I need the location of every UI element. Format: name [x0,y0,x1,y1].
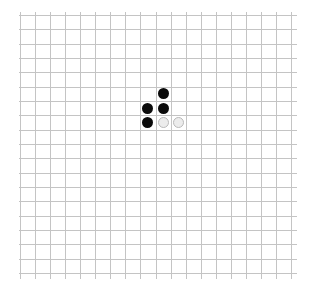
board-cell[interactable] [80,58,95,72]
board-cell[interactable] [80,72,95,86]
board-cell[interactable] [65,101,80,115]
board-cell[interactable] [20,101,35,115]
board-cell[interactable] [110,87,125,101]
board-cell[interactable] [246,101,261,115]
board-cell[interactable] [276,144,291,158]
board-cell[interactable] [125,244,140,258]
board-cell[interactable] [276,244,291,258]
board-cell[interactable] [171,259,186,273]
board-cell[interactable] [110,58,125,72]
board-cell[interactable] [110,115,125,129]
board-cell[interactable] [125,58,140,72]
board-cell[interactable] [246,115,261,129]
board-cell[interactable] [35,173,50,187]
board-cell[interactable] [201,201,216,215]
board-cell[interactable] [140,72,155,86]
board-cell[interactable] [35,44,50,58]
board-cell[interactable] [231,15,246,29]
board-cell[interactable] [140,173,155,187]
board-cell[interactable] [35,230,50,244]
board-cell[interactable] [80,173,95,187]
board-cell[interactable] [246,29,261,43]
board-cell[interactable] [156,58,171,72]
board-cell[interactable] [65,115,80,129]
board-cell[interactable] [50,58,65,72]
board-cell[interactable] [231,144,246,158]
board-cell[interactable] [276,15,291,29]
board-cell[interactable] [140,87,155,101]
board-cell[interactable] [231,230,246,244]
board-cell[interactable] [186,115,201,129]
board-cell[interactable] [20,115,35,129]
board-cell[interactable] [186,187,201,201]
board-cell[interactable] [216,15,231,29]
board-cell[interactable] [261,58,276,72]
board-cell[interactable] [231,187,246,201]
board-cell[interactable] [95,72,110,86]
board-cell[interactable] [140,259,155,273]
board-cell[interactable] [216,244,231,258]
board-cell[interactable] [216,58,231,72]
board-cell[interactable] [261,244,276,258]
board-cell[interactable] [201,87,216,101]
board-cell[interactable] [246,244,261,258]
board-cell[interactable] [156,230,171,244]
board-cell[interactable] [216,44,231,58]
board-cell[interactable] [140,216,155,230]
board-cell[interactable] [276,29,291,43]
board-cell[interactable] [246,173,261,187]
board-cell[interactable] [50,230,65,244]
board-cell[interactable] [95,244,110,258]
board-cell[interactable] [20,144,35,158]
board-cell[interactable] [246,72,261,86]
board-cell[interactable] [80,259,95,273]
board-cell[interactable] [186,130,201,144]
board-cell[interactable] [50,244,65,258]
board-cell[interactable] [246,144,261,158]
board-cell[interactable] [276,259,291,273]
board-cell[interactable] [50,201,65,215]
board-cell[interactable] [261,187,276,201]
board-cell[interactable] [171,216,186,230]
board-cell[interactable] [261,216,276,230]
board-cell[interactable] [276,230,291,244]
board-cell[interactable] [80,15,95,29]
board-cell[interactable] [95,15,110,29]
board-cell[interactable] [201,230,216,244]
board-cell[interactable] [186,259,201,273]
board-cell[interactable] [156,44,171,58]
board-cell[interactable] [125,101,140,115]
board-cell[interactable] [20,130,35,144]
board-cell[interactable] [65,130,80,144]
board-cell[interactable] [231,115,246,129]
board-cell[interactable] [35,244,50,258]
board-cell[interactable] [110,259,125,273]
board-cell[interactable] [125,72,140,86]
board-cell[interactable] [261,44,276,58]
board-cell[interactable] [156,173,171,187]
board-cell[interactable] [261,15,276,29]
board-cell[interactable] [156,158,171,172]
board-cell[interactable] [125,29,140,43]
board-cell[interactable] [231,72,246,86]
board-cell[interactable] [110,230,125,244]
board-cell[interactable] [110,144,125,158]
board-cell[interactable] [35,130,50,144]
board-cell[interactable] [110,101,125,115]
board-cell[interactable] [261,101,276,115]
board-cell[interactable] [201,130,216,144]
board-cell[interactable] [246,187,261,201]
board-cell[interactable] [80,115,95,129]
board-cell[interactable] [186,244,201,258]
board-cell[interactable] [80,230,95,244]
board-cell[interactable] [65,187,80,201]
board-cell[interactable] [20,173,35,187]
board-cell[interactable] [246,216,261,230]
board-cell[interactable] [50,44,65,58]
board-cell[interactable] [216,29,231,43]
board-cell[interactable] [186,158,201,172]
board-cell[interactable] [125,15,140,29]
board-cell[interactable] [216,130,231,144]
board-cell[interactable] [261,158,276,172]
board-cell[interactable] [246,87,261,101]
